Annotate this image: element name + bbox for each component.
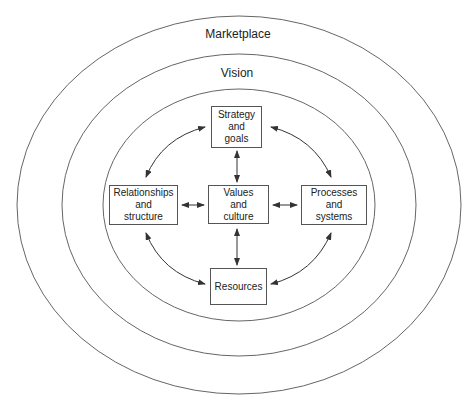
label-vision: Vision	[221, 66, 253, 80]
box-label: Values and culture	[223, 187, 253, 223]
box-label: Strategy and goals	[218, 109, 255, 145]
box-label: Relationships and structure	[113, 187, 173, 223]
label-marketplace: Marketplace	[205, 27, 270, 41]
box-label: Resources	[215, 281, 263, 293]
arrow-relationships-resources	[146, 233, 205, 284]
box-strategy-and-goals: Strategy and goals	[211, 106, 262, 148]
box-values-and-culture: Values and culture	[208, 185, 269, 224]
arrow-strategy-processes	[271, 127, 331, 177]
box-resources: Resources	[210, 268, 267, 305]
box-label: Processes and systems	[311, 187, 358, 223]
arrow-relationships-strategy	[146, 127, 205, 177]
box-processes-and-systems: Processes and systems	[301, 185, 367, 225]
box-relationships-and-structure: Relationships and structure	[109, 185, 178, 225]
arrow-processes-resources	[271, 233, 331, 284]
